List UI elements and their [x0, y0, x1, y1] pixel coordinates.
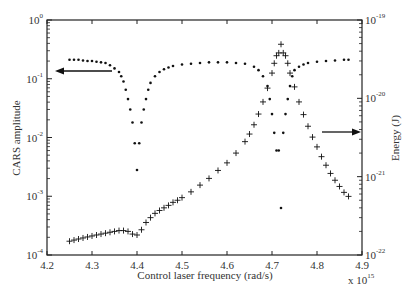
data-point [199, 62, 202, 65]
data-point [139, 227, 145, 233]
data-point [273, 132, 276, 135]
data-point [206, 175, 212, 181]
data-point [112, 228, 118, 234]
data-point [244, 62, 247, 65]
data-point [265, 85, 271, 91]
data-point [158, 71, 161, 74]
data-point [71, 237, 77, 243]
data-point [138, 142, 141, 145]
data-point [343, 59, 346, 62]
axis-arrows [55, 68, 361, 136]
x-axis-title: Control laser frequency (rad/s) [137, 269, 273, 282]
data-point [104, 62, 107, 65]
data-point [172, 65, 175, 68]
data-point [76, 236, 82, 242]
data-point [268, 98, 271, 101]
data-point [152, 210, 158, 216]
right-y-tick-label: 10-21 [365, 169, 386, 183]
tick-labels: 4.24.34.44.54.64.74.84.910010-110-210-31… [26, 12, 386, 271]
data-point [233, 150, 239, 156]
data-point [109, 64, 112, 67]
data-point [82, 59, 85, 62]
data-point [154, 75, 157, 78]
data-point [278, 41, 284, 47]
data-point [275, 149, 278, 152]
data-point [319, 154, 325, 160]
data-point [113, 67, 116, 70]
data-point [251, 122, 257, 128]
data-point [163, 68, 166, 71]
data-point [269, 70, 275, 76]
data-point [346, 193, 352, 199]
data-point [301, 112, 307, 118]
data-point [133, 142, 136, 145]
svg-text:x 1015: x 1015 [348, 272, 375, 286]
data-point [334, 59, 337, 62]
data-point [121, 228, 127, 234]
data-point [285, 60, 291, 66]
x-tick-label: 4.8 [310, 259, 324, 271]
data-point [167, 66, 170, 69]
data-point [91, 60, 94, 63]
data-point [328, 170, 334, 176]
data-point [134, 232, 140, 238]
data-point [190, 62, 193, 65]
left-y-tick-label: 10-2 [26, 130, 43, 144]
data-point [307, 62, 310, 65]
left-y-tick-label: 10-3 [26, 188, 43, 202]
data-point [284, 113, 287, 116]
data-point [256, 111, 262, 117]
data-point [235, 62, 238, 65]
right-y-tick-label: 10-20 [365, 90, 386, 104]
data-point [130, 231, 136, 237]
data-point [98, 231, 104, 237]
data-point [142, 108, 145, 111]
data-point [68, 59, 71, 62]
data-point [271, 60, 277, 66]
data-point [125, 228, 131, 234]
cars-amplitude-series [68, 59, 350, 210]
data-point [127, 98, 130, 101]
data-point [253, 65, 256, 68]
data-point [325, 60, 328, 63]
data-point [94, 232, 100, 238]
x-tick-label: 4.3 [85, 259, 99, 271]
data-point [73, 59, 76, 62]
data-point [292, 84, 298, 90]
data-point [262, 75, 265, 78]
data-point [289, 85, 292, 88]
data-point [148, 215, 154, 221]
data-point [260, 99, 266, 105]
data-point [271, 113, 274, 116]
data-point [145, 98, 148, 101]
left-y-tick-label: 10-1 [26, 71, 43, 85]
data-point [291, 75, 294, 78]
data-point [296, 99, 302, 105]
data-point [242, 139, 248, 145]
data-point [293, 69, 296, 72]
data-point [197, 182, 203, 188]
data-point [224, 160, 230, 166]
data-point [95, 60, 98, 63]
data-point [124, 88, 127, 91]
data-point [181, 63, 184, 66]
left-y-axis-title: CARS amplitude [10, 100, 22, 176]
data-point [217, 61, 220, 64]
data-point [131, 121, 134, 124]
data-point [136, 169, 139, 172]
data-point [280, 207, 283, 210]
data-point [341, 189, 347, 195]
data-point [143, 219, 149, 225]
data-point [89, 233, 95, 239]
data-point [310, 134, 316, 140]
x-axis-multiplier: x 1015 [348, 272, 375, 286]
data-point [332, 177, 338, 183]
data-point [208, 61, 211, 64]
right-y-axis-title: Energy (J) [389, 115, 402, 161]
data-point [67, 238, 73, 244]
right-y-tick-label: 10-22 [365, 247, 386, 261]
data-point [302, 63, 305, 66]
data-point [77, 59, 80, 62]
data-point [305, 123, 311, 129]
data-point [122, 80, 125, 83]
